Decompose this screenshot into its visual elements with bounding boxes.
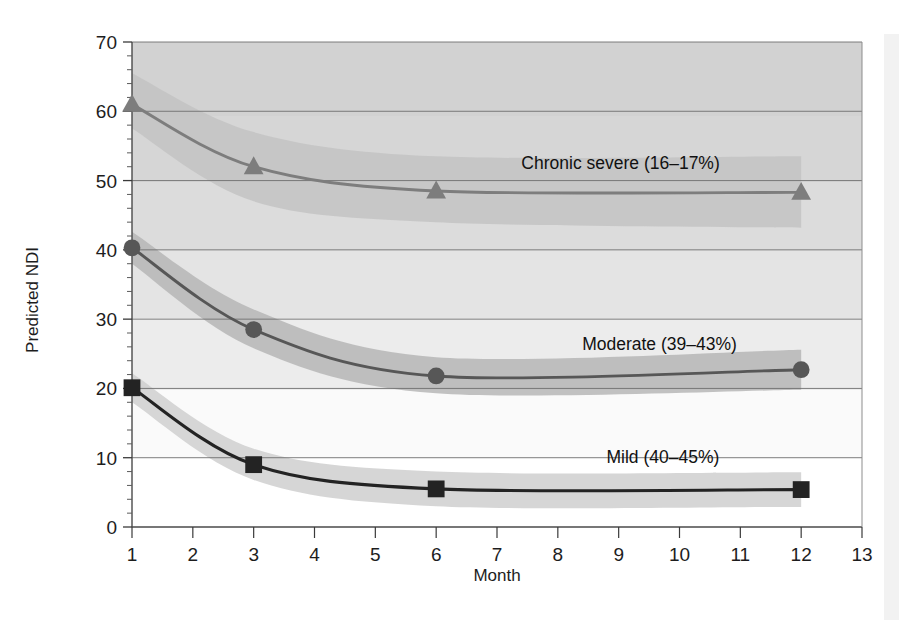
x-tick-label-5: 5 [370, 544, 381, 565]
series-label-mild: Mild (40–45%) [607, 447, 720, 467]
marker-mild-month-12 [793, 481, 810, 498]
predicted-ndi-line-chart: 010203040506070 12345678910111213 Chroni… [0, 0, 905, 637]
marker-moderate-month-3 [245, 321, 262, 338]
y-axis-title: Predicted NDI [23, 247, 42, 353]
series-label-chronic: Chronic severe (16–17%) [521, 153, 719, 173]
marker-mild-month-3 [245, 456, 262, 473]
series-label-moderate: Moderate (39–43%) [582, 334, 737, 354]
x-tick-label-2: 2 [188, 544, 199, 565]
marker-moderate-month-12 [793, 361, 810, 378]
x-tick-label-8: 8 [553, 544, 564, 565]
x-tick-label-12: 12 [791, 544, 812, 565]
figure-canvas: 010203040506070 12345678910111213 Chroni… [0, 0, 905, 637]
y-tick-label-70: 70 [96, 32, 117, 53]
x-tick-label-4: 4 [309, 544, 320, 565]
y-tick-label-10: 10 [96, 448, 117, 469]
y-tick-label-60: 60 [96, 101, 117, 122]
y-tick-label-50: 50 [96, 171, 117, 192]
marker-mild-month-6 [428, 480, 445, 497]
x-tick-label-1: 1 [127, 544, 138, 565]
marker-mild-month-1 [124, 379, 141, 396]
x-tick-label-11: 11 [730, 544, 750, 565]
x-tick-label-9: 9 [613, 544, 624, 565]
x-tick-label-13: 13 [851, 544, 872, 565]
x-tick-label-3: 3 [248, 544, 259, 565]
x-axis-title: Month [473, 566, 520, 585]
y-tick-label-30: 30 [96, 309, 117, 330]
marker-moderate-month-6 [428, 368, 445, 385]
x-tick-label-7: 7 [492, 544, 503, 565]
marker-moderate-month-1 [124, 239, 141, 256]
y-tick-label-0: 0 [106, 517, 117, 538]
x-tick-label-6: 6 [431, 544, 442, 565]
y-tick-label-20: 20 [96, 378, 117, 399]
x-tick-label-10: 10 [669, 544, 690, 565]
y-tick-label-40: 40 [96, 240, 117, 261]
